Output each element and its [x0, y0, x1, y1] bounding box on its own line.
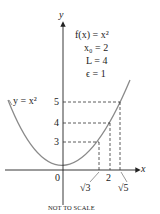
function-label: f(x) = x² — [75, 30, 109, 40]
dashed-guides — [63, 102, 120, 170]
y-tick-3: 3 — [54, 137, 59, 147]
y-tick-4: 4 — [54, 118, 59, 128]
origin-label: 0 — [55, 173, 60, 183]
x-axis-label: x — [141, 164, 145, 174]
caption: NOT TO SCALE — [48, 204, 95, 211]
x-tick-sqrt3: √3 — [80, 183, 91, 193]
y-axis-label: y — [59, 10, 63, 20]
x-tick-sqrt5: √5 — [118, 183, 129, 193]
epsilon-label: ϵ = 1 — [86, 69, 106, 79]
L-label: L = 4 — [86, 56, 107, 66]
x0-label: x₀ = 2 — [84, 43, 108, 53]
y-tick-5: 5 — [54, 97, 59, 107]
curve-label: y = x² — [13, 96, 37, 106]
sqrt3-leader — [90, 172, 99, 182]
x-tick-2: 2 — [106, 173, 111, 183]
sqrt5-leader — [121, 172, 127, 182]
